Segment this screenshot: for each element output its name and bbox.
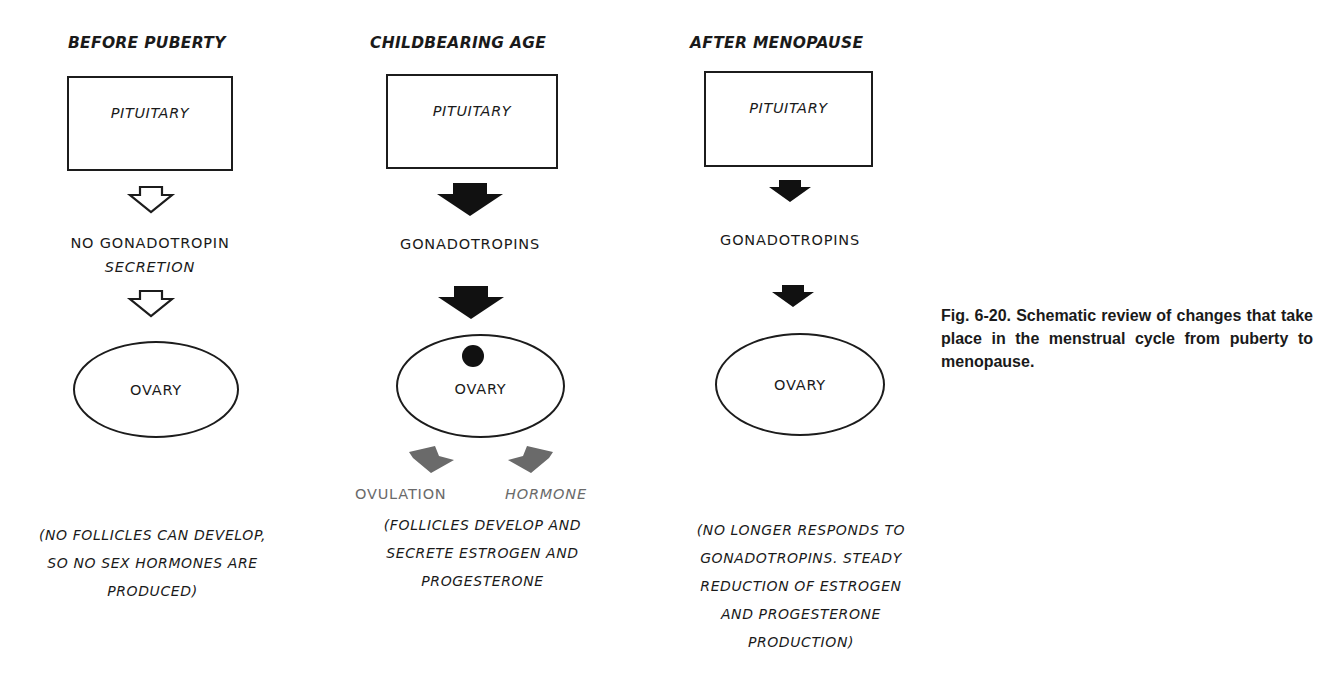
- note-line: AND PROGESTERONE: [660, 600, 942, 628]
- ovary-label: OVARY: [130, 382, 182, 398]
- column-title-childbearing-age: CHILDBEARING AGE: [370, 34, 546, 52]
- column-title-after-menopause: AFTER MENOPAUSE: [690, 34, 863, 52]
- solid-down-arrow-icon-small: [768, 180, 812, 203]
- secretion-label-line-1: NO GONADOTROPIN: [40, 235, 260, 251]
- ovary-label: OVARY: [774, 377, 826, 393]
- pituitary-label: PITUITARY: [433, 103, 512, 167]
- follicle-dot-icon: [462, 345, 484, 367]
- output-arrow-hormone-icon: [508, 446, 554, 474]
- note-after-menopause: (NO LONGER RESPONDS TO GONADOTROPINS. ST…: [660, 516, 942, 656]
- secretion-label-after-menopause: GONADOTROPINS: [690, 232, 890, 248]
- pituitary-box-childbearing-age: PITUITARY: [386, 74, 558, 169]
- note-line: REDUCTION OF ESTROGEN: [660, 572, 942, 600]
- secretion-label-before-puberty: NO GONADOTROPIN SECRETION: [40, 235, 260, 275]
- note-line: PRODUCTION): [660, 628, 942, 656]
- solid-down-arrow-icon: [436, 183, 504, 217]
- solid-down-arrow-icon: [437, 286, 505, 320]
- secretion-label-line-2: SECRETION: [40, 259, 260, 275]
- note-line: (FOLLICLES DEVELOP AND: [330, 511, 635, 539]
- output-arrow-ovulation-icon: [409, 446, 455, 474]
- output-label-hormone: HORMONE: [505, 486, 587, 502]
- outline-down-arrow-icon: [128, 290, 174, 317]
- pituitary-label: PITUITARY: [749, 100, 828, 165]
- note-line: PROGESTERONE: [330, 567, 635, 595]
- note-line: SO NO SEX HORMONES ARE: [0, 549, 305, 577]
- note-line: SECRETE ESTROGEN AND: [330, 539, 635, 567]
- note-line: (NO LONGER RESPONDS TO: [660, 516, 942, 544]
- pituitary-box-before-puberty: PITUITARY: [67, 76, 233, 171]
- pituitary-label: PITUITARY: [111, 105, 190, 169]
- outline-down-arrow-icon: [128, 186, 174, 213]
- solid-down-arrow-icon-small: [771, 285, 815, 308]
- note-line: PRODUCED): [0, 577, 305, 605]
- note-before-puberty: (NO FOLLICLES CAN DEVELOP, SO NO SEX HOR…: [0, 521, 305, 605]
- figure-caption: Fig. 6-20. Schematic review of changes t…: [941, 304, 1313, 373]
- pituitary-box-after-menopause: PITUITARY: [704, 71, 873, 167]
- note-childbearing-age: (FOLLICLES DEVELOP AND SECRETE ESTROGEN …: [330, 511, 635, 595]
- ovary-label: OVARY: [454, 381, 506, 397]
- secretion-label-childbearing-age: GONADOTROPINS: [370, 236, 570, 252]
- secretion-label-line-1: GONADOTROPINS: [370, 236, 570, 252]
- output-label-ovulation: OVULATION: [355, 486, 447, 502]
- note-line: GONADOTROPINS. STEADY: [660, 544, 942, 572]
- note-line: (NO FOLLICLES CAN DEVELOP,: [0, 521, 305, 549]
- ovary-ellipse-after-menopause: OVARY: [715, 333, 885, 436]
- secretion-label-line-1: GONADOTROPINS: [690, 232, 890, 248]
- column-title-before-puberty: BEFORE PUBERTY: [68, 34, 226, 52]
- ovary-ellipse-before-puberty: OVARY: [73, 341, 239, 438]
